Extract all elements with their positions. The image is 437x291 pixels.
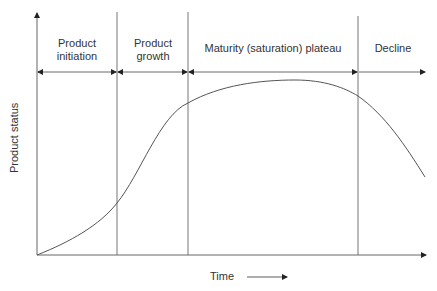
phase-label-line: Maturity (saturation) plateau	[190, 42, 356, 55]
phase-label-growth: Product growth	[122, 37, 184, 63]
phase-label-line: growth	[122, 50, 184, 63]
phase-label-line: Decline	[362, 42, 424, 55]
phase-label-maturity: Maturity (saturation) plateau	[190, 42, 356, 55]
phase-label-initiation: Product initiation	[47, 37, 107, 63]
phase-label-line: initiation	[47, 50, 107, 63]
phase-label-line: Product	[47, 37, 107, 50]
x-axis-label: Time	[207, 270, 237, 283]
y-axis-label: Product status	[8, 103, 20, 173]
phase-label-line: Product	[122, 37, 184, 50]
lifecycle-curve	[37, 80, 425, 255]
phase-label-decline: Decline	[362, 42, 424, 55]
